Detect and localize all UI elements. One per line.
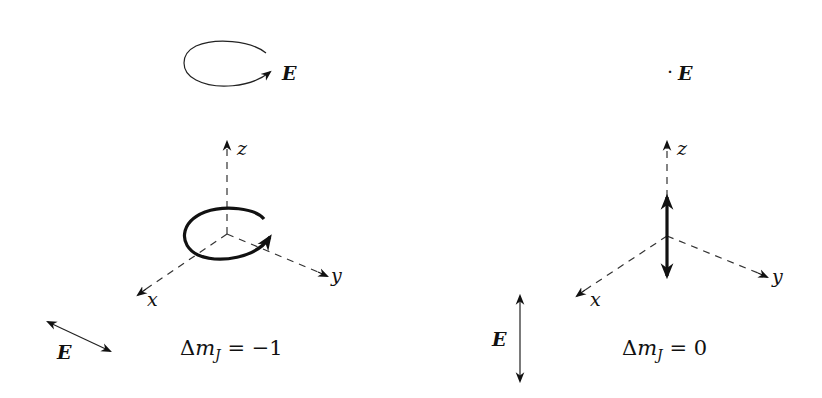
x-axis-label: x <box>147 288 158 310</box>
transition-label: ΔmJ = −1 <box>180 336 283 363</box>
field-label-bottom: E <box>491 328 507 350</box>
right-panel: · E z x y E ΔmJ = 0 <box>491 60 783 381</box>
transition-label: ΔmJ = 0 <box>622 336 707 363</box>
x-axis-label: x <box>590 288 601 310</box>
z-axis-label: z <box>676 137 688 159</box>
y-axis-label: y <box>330 264 342 286</box>
circular-field-icon <box>184 41 270 86</box>
field-label-top: E <box>281 62 297 84</box>
dot-symbol: · <box>667 60 673 82</box>
left-panel: E z x y E ΔmJ = −1 <box>48 41 342 363</box>
coordinate-axes <box>577 142 767 296</box>
z-axis-label: z <box>236 137 248 159</box>
coordinate-axes <box>138 142 327 295</box>
y-axis-label: y <box>771 265 783 287</box>
field-label-bottom: E <box>56 341 72 363</box>
field-label-top: E <box>677 62 693 84</box>
polarization-diagram: E z x y E ΔmJ = −1 · E <box>0 0 822 398</box>
